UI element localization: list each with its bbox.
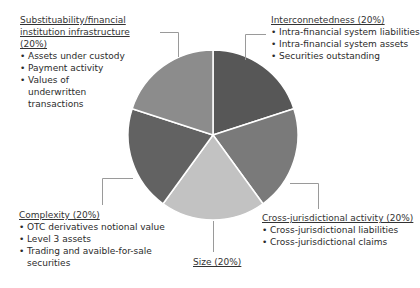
bullet-list-cross-jurisdictional: Cross-jurisdictional liabilities Cross-j… [262,224,413,248]
label-title-size: Size (20%) [193,256,241,268]
label-substituability: Substituability/financial institution in… [20,14,180,110]
bullet-list-interconnectedness: Intra-financial system liabilities Intra… [271,26,420,62]
leader-line-cross-jurisdictional [290,184,319,210]
bullet-item: Payment activity [20,62,180,74]
bullet-item: Securities outstanding [271,50,420,62]
bullet-item: Assets under custody [20,50,180,62]
bullet-item: Intra-financial system liabilities [271,26,420,38]
label-title-interconnectedness: Interconnetedness (20%) [271,14,420,26]
label-title-complexity: Complexity (20%) [19,209,159,221]
label-title-substituability: Substituability/financial institution in… [20,14,152,50]
bullet-item: Cross-jurisdictional claims [262,236,413,248]
bullet-list-complexity: OTC derivatives notional value Level 3 a… [19,221,159,269]
bullet-item: OTC derivatives notional value [19,221,159,233]
bullet-list-substituability: Assets under custody Payment activity Va… [20,50,180,110]
bullet-item: Values of underwritten transactions [20,74,123,110]
label-complexity: Complexity (20%) OTC derivatives notiona… [19,209,159,269]
leader-line-interconnectedness [246,35,267,61]
label-cross-jurisdictional: Cross-jurisdictional activity (20%) Cros… [262,212,413,248]
bullet-item: Level 3 assets [19,233,159,245]
label-title-cross-jurisdictional: Cross-jurisdictional activity (20%) [262,212,413,224]
bullet-item: Intra-financial system assets [271,38,420,50]
label-size: Size (20%) [193,256,241,268]
label-interconnectedness: Interconnetedness (20%) Intra-financial … [271,14,420,62]
leader-line-complexity [103,179,134,206]
bullet-item: Trading and avaible-for-sale securities [19,245,152,269]
bullet-item: Cross-jurisdictional liabilities [262,224,413,236]
